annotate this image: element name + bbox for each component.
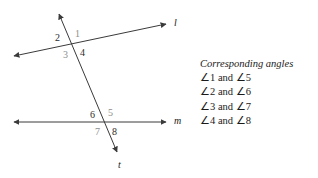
legend-title: Corresponding angles [200,57,312,71]
line-l-label: l [174,18,177,28]
angle-label-2: 2 [55,33,60,43]
angle-label-1: 1 [75,29,80,39]
angle-label-4: 4 [80,48,85,58]
legend-row: ∠1 and ∠5 [200,71,312,85]
angle-label-7: 7 [95,127,100,137]
transversal-t-stroke [59,14,117,152]
angle-label-5: 5 [108,108,113,118]
corresponding-angles-legend: Corresponding angles ∠1 and ∠5 ∠2 and ∠6… [200,57,312,128]
line-l-stroke [14,24,166,56]
angle-label-3: 3 [63,50,68,60]
legend-row: ∠4 and ∠8 [200,114,312,128]
legend-row: ∠3 and ∠7 [200,100,312,114]
angle-label-6: 6 [90,110,95,120]
transversal-t-label: t [118,160,121,170]
line-m-label: m [174,116,181,126]
geometry-figure-page: l m t 1 2 3 4 5 6 7 8 Corresponding angl… [0,0,318,178]
angle-label-8: 8 [112,127,117,137]
legend-row: ∠2 and ∠6 [200,85,312,99]
